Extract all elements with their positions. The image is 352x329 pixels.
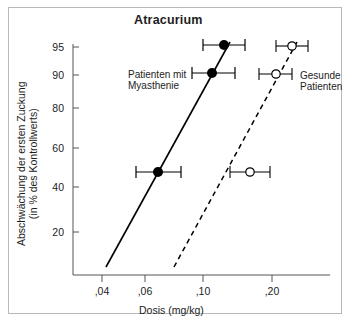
y-tick-label-80: 80: [42, 102, 64, 114]
y-axis-title: Abschwächung der ersten Zuckung (in % de…: [16, 76, 40, 252]
y-tick-label-90: 90: [42, 69, 64, 81]
chart-title: Atracurium: [134, 13, 203, 27]
x-tick-label-004: ,04: [89, 285, 115, 297]
chart-figure: Atracurium 95 90 80 60 40 20 ,04 ,06 ,10…: [0, 0, 352, 329]
y-axis-ticks: [73, 47, 79, 232]
y-tick-label-60: 60: [42, 142, 64, 154]
data-point-healthy-48: [230, 166, 270, 178]
annotation-healthy: Gesunde Patienten: [300, 70, 350, 92]
annotation-myasthenia: Patienten mit Myasthenie: [128, 69, 206, 91]
data-point-myasthenia-48: [136, 166, 181, 178]
y-tick-label-95: 95: [42, 41, 64, 53]
y-tick-label-20: 20: [42, 226, 64, 238]
y-tick-label-40: 40: [42, 181, 64, 193]
x-tick-label-020: ,20: [259, 285, 285, 297]
x-axis-title: Dosis (mg/kg): [139, 305, 204, 317]
data-point-healthy-95: [276, 40, 308, 52]
x-tick-label-006: ,06: [132, 285, 158, 297]
data-point-healthy-90: [259, 68, 292, 80]
x-tick-label-010: ,10: [190, 285, 216, 297]
x-axis-ticks: [102, 275, 272, 282]
data-point-myasthenia-95: [203, 39, 245, 51]
